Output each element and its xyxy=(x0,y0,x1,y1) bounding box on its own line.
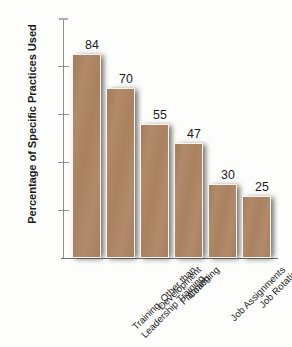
bar-training-other-than-leadership-training[interactable] xyxy=(72,54,101,258)
bar-value-label: 55 xyxy=(140,108,180,122)
plot-area: 84 70 55 47 30 25 Training, Other than L… xyxy=(63,18,278,258)
bar-value-label: 84 xyxy=(72,38,112,52)
y-axis-line xyxy=(63,18,64,258)
y-axis-title: Percentage of Specific Practices Used xyxy=(26,4,38,244)
bar-chart-figure: Percentage of Specific Practices Used 10… xyxy=(0,0,292,347)
bar-internal-mentoring-programs[interactable] xyxy=(242,196,271,258)
x-axis-line xyxy=(61,258,278,259)
bar-value-label: 47 xyxy=(174,127,214,141)
y-tick-mark-60 xyxy=(58,114,69,115)
bar-development-planning[interactable] xyxy=(106,88,135,258)
bar-value-label: 25 xyxy=(242,180,282,194)
bar-job-assignments[interactable] xyxy=(174,143,203,258)
bar-job-rotation[interactable] xyxy=(208,184,237,258)
bar-coaching[interactable] xyxy=(140,124,169,258)
y-tick-mark-40 xyxy=(58,162,69,163)
bar-value-label: 70 xyxy=(106,72,146,86)
y-tick-mark-80 xyxy=(58,66,69,67)
y-tick-mark-20 xyxy=(58,210,69,211)
y-tick-mark-100 xyxy=(59,18,68,20)
